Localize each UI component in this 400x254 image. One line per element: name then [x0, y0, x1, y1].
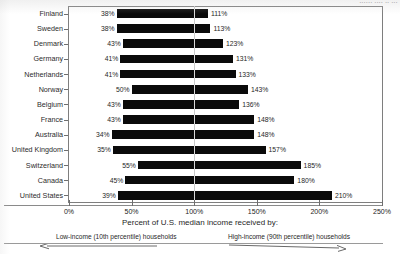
range-bar: [123, 100, 239, 109]
y-axis-tick: [64, 195, 68, 196]
category-label-united-states: United States: [0, 188, 63, 203]
high-income-value-label: 123%: [226, 36, 243, 51]
x-axis-tick: [257, 200, 258, 206]
high-income-value-label: 185%: [304, 158, 321, 173]
bar-row: Canada45%180%: [0, 173, 400, 188]
bar-gridline-seam: [194, 176, 195, 185]
bar-row: Norway50%143%: [0, 82, 400, 97]
legend-arrow-right-icon: [228, 243, 348, 253]
high-income-value-label: 133%: [239, 67, 256, 82]
bar-gridline-seam: [194, 55, 195, 64]
high-income-value-label: 210%: [335, 188, 352, 203]
legend-label-high-income: High-income (90th percentile) households: [228, 233, 350, 241]
bar-row: United Kingdom35%157%: [0, 142, 400, 157]
high-income-value-label: 131%: [236, 51, 253, 66]
bar-gridline-seam: [194, 9, 195, 18]
category-label-denmark: Denmark: [0, 36, 63, 51]
high-income-value-label: 136%: [242, 97, 259, 112]
category-label-belgium: Belgium: [0, 97, 63, 112]
low-income-value-label: 35%: [81, 142, 111, 157]
bar-gridline-seam: [194, 85, 195, 94]
category-label-finland: Finland: [0, 6, 63, 21]
bar-gridline-seam: [194, 100, 195, 109]
legend-bottom-rule: [4, 243, 383, 244]
y-axis-tick: [64, 135, 68, 136]
range-bar: [117, 24, 211, 33]
bar-gridline-seam: [194, 39, 195, 48]
y-axis-tick: [64, 165, 68, 166]
category-label-germany: Germany: [0, 51, 63, 66]
y-axis-tick: [64, 74, 68, 75]
category-label-united-kingdom: United Kingdom: [0, 142, 63, 157]
y-axis-tick: [64, 59, 68, 60]
range-bar: [138, 161, 301, 170]
bar-row: Germany41%131%: [0, 51, 400, 66]
y-axis-tick: [64, 150, 68, 151]
y-axis-tick: [64, 89, 68, 90]
bar-gridline-seam: [194, 191, 195, 200]
high-income-value-label: 113%: [213, 21, 230, 36]
x-axis-tick: [69, 200, 70, 206]
x-axis-tick-label: 100%: [185, 207, 203, 216]
range-bar: [120, 55, 233, 64]
bar-row: Australia34%148%: [0, 127, 400, 142]
range-bar: [112, 130, 255, 139]
range-bar: [113, 146, 266, 155]
low-income-value-label: 43%: [91, 36, 121, 51]
x-axis-tick-label: 200%: [310, 207, 328, 216]
bar-row: Switzerland55%185%: [0, 158, 400, 173]
high-income-value-label: 157%: [269, 142, 286, 157]
category-label-norway: Norway: [0, 82, 63, 97]
y-axis-tick: [64, 44, 68, 45]
low-income-value-label: 41%: [88, 67, 118, 82]
high-income-value-label: 148%: [257, 112, 274, 127]
bar-gridline-seam: [194, 24, 195, 33]
high-income-value-label: 180%: [297, 173, 314, 188]
bar-gridline-seam: [194, 115, 195, 124]
range-bar: [118, 191, 332, 200]
bar-gridline-seam: [194, 146, 195, 155]
bar-gridline-seam: [194, 70, 195, 79]
range-bar: [132, 85, 248, 94]
bar-row: Belgium43%136%: [0, 97, 400, 112]
x-axis-tick-label: 50%: [125, 207, 139, 216]
income-distribution-chart: ······ ···· ·· ··· Finland38%111%Sweden3…: [0, 0, 400, 254]
x-axis-tick: [132, 200, 133, 206]
cut-off-header-text: ······ ···· ·· ···: [240, 0, 398, 4]
category-label-canada: Canada: [0, 173, 63, 188]
low-income-value-label: 43%: [91, 112, 121, 127]
category-label-sweden: Sweden: [0, 21, 63, 36]
x-axis-tick-label: 0%: [64, 207, 74, 216]
high-income-value-label: 148%: [257, 127, 274, 142]
y-axis-tick: [64, 29, 68, 30]
bar-row: United States39%210%: [0, 188, 400, 203]
bar-rows-container: Finland38%111%Sweden38%113%Denmark43%123…: [0, 6, 400, 203]
bar-row: Sweden38%113%: [0, 21, 400, 36]
category-label-australia: Australia: [0, 127, 63, 142]
y-axis-tick: [64, 104, 68, 105]
x-axis-tick-label: 150%: [248, 207, 266, 216]
high-income-value-label: 143%: [251, 82, 268, 97]
low-income-value-label: 55%: [106, 158, 136, 173]
category-label-france: France: [0, 112, 63, 127]
low-income-value-label: 50%: [100, 82, 130, 97]
low-income-value-label: 43%: [91, 97, 121, 112]
category-label-netherlands: Netherlands: [0, 67, 63, 82]
bar-gridline-seam: [194, 161, 195, 170]
range-bar: [120, 70, 235, 79]
x-axis-tick: [382, 200, 383, 206]
low-income-value-label: 39%: [86, 188, 116, 203]
y-axis-tick: [64, 180, 68, 181]
x-axis-title: Percent of U.S. median income received b…: [0, 218, 400, 227]
high-income-value-label: 111%: [211, 6, 227, 21]
range-bar: [125, 176, 294, 185]
bar-row: Netherlands41%133%: [0, 67, 400, 82]
bar-row: France43%148%: [0, 112, 400, 127]
legend-label-low-income: Low-income (10th percentile) households: [56, 233, 177, 241]
low-income-value-label: 41%: [88, 51, 118, 66]
low-income-value-label: 34%: [80, 127, 110, 142]
y-axis-tick: [64, 120, 68, 121]
low-income-value-label: 38%: [85, 21, 115, 36]
bar-gridline-seam: [194, 130, 195, 139]
legend-arrow-left-icon: [38, 243, 158, 253]
